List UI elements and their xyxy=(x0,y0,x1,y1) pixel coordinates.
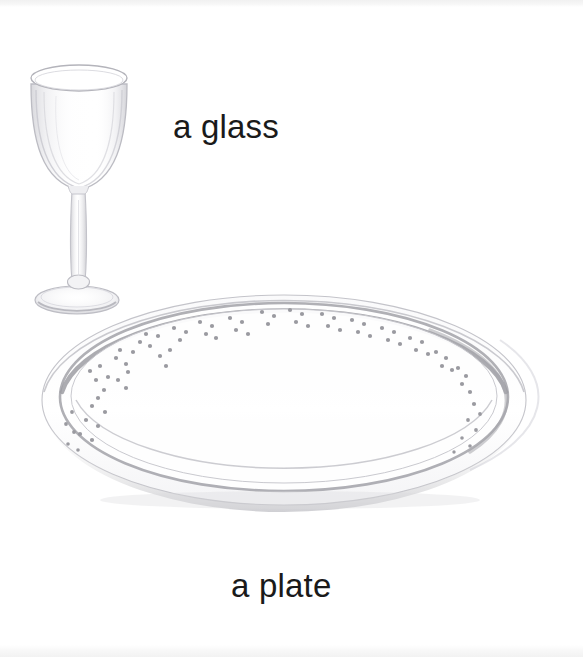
glass-bowl xyxy=(31,84,127,190)
wine-glass-drawing xyxy=(31,65,127,314)
glass-foot xyxy=(35,286,119,314)
plate-drawing xyxy=(42,295,538,512)
illustration-page: a glass a plate xyxy=(0,0,583,657)
label-a-glass: a glass xyxy=(173,110,279,143)
sketch-artwork xyxy=(0,0,583,657)
plate-contact-shadow xyxy=(100,491,480,509)
glass-rim xyxy=(31,65,127,91)
label-a-plate: a plate xyxy=(231,569,331,602)
plate-inner-well xyxy=(71,309,497,483)
glass-stem-knob xyxy=(68,275,90,289)
glass-bowl-stem-joint xyxy=(68,186,89,194)
